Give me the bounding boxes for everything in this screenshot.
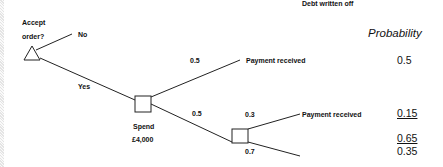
- probability-value-2: 0.15: [397, 108, 417, 119]
- yes-branch-line: [40, 58, 135, 100]
- probability-value-1: 0.5: [397, 55, 412, 66]
- decision-node-label-line2: order?: [22, 33, 44, 40]
- chance2-upper-prob: 0.3: [245, 111, 255, 118]
- probability-value-3: 0.35: [397, 146, 417, 157]
- chance-node-1-square-icon: [135, 96, 151, 112]
- decision-tree-lines: [0, 0, 443, 167]
- chance1-upper-outcome: Payment received: [246, 57, 306, 64]
- yes-branch-label: Yes: [78, 83, 90, 90]
- chance1-upper-prob: 0.5: [190, 57, 200, 64]
- chance2-lower-prob: 0.7: [245, 148, 255, 155]
- decision-node-triangle-icon: [24, 46, 40, 60]
- chance-node-1-label-line1: Spend: [133, 123, 154, 130]
- probability-column-header: Probability: [368, 28, 422, 40]
- chance2-upper-branch-line: [248, 114, 300, 129]
- chance2-lower-outcome: Debt written off: [302, 0, 353, 7]
- chance2-lower-branch-line: [248, 142, 300, 156]
- chance-node-1-label-line2: £4,000: [132, 136, 153, 143]
- chance-node-2-square-icon: [232, 129, 248, 143]
- probability-total: 0.65: [397, 133, 417, 144]
- chance2-upper-outcome: Payment received: [302, 111, 362, 118]
- chance1-lower-prob: 0.5: [192, 110, 202, 117]
- no-branch-label: No: [78, 31, 87, 38]
- chance1-upper-branch-line: [151, 60, 240, 97]
- decision-node-label-line1: Accept: [22, 19, 45, 26]
